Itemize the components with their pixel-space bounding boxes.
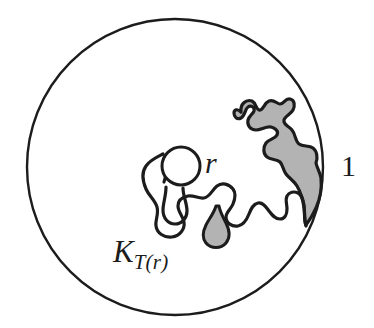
label-hull-base: K: [113, 234, 134, 269]
teardrop-blob: [203, 206, 229, 248]
figure-container: r 1 KT(r): [0, 0, 374, 328]
inner-circle-radius-r: [162, 147, 200, 185]
hull-drip-lobe: [163, 187, 187, 224]
label-hull-subscript: T(r): [134, 250, 169, 274]
shaded-band: [234, 99, 321, 225]
label-radius-one: 1: [341, 151, 356, 181]
label-hull-k: KT(r): [113, 236, 168, 273]
diagram-canvas: [0, 0, 374, 328]
label-radius-r: r: [205, 148, 217, 178]
